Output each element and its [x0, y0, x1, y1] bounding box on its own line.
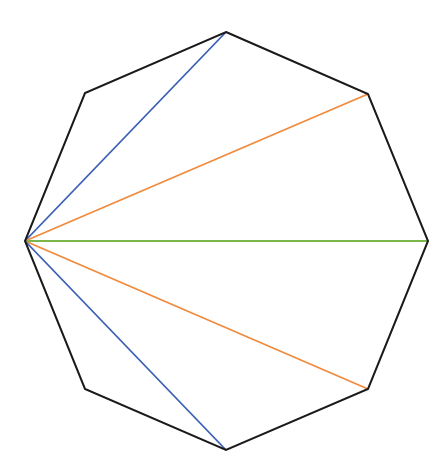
diagram-svg: [0, 0, 444, 469]
octagon-diagram: [0, 0, 444, 469]
diagonal-left-to-bottom: [25, 241, 226, 450]
diagonal-left-to-top: [25, 32, 226, 241]
